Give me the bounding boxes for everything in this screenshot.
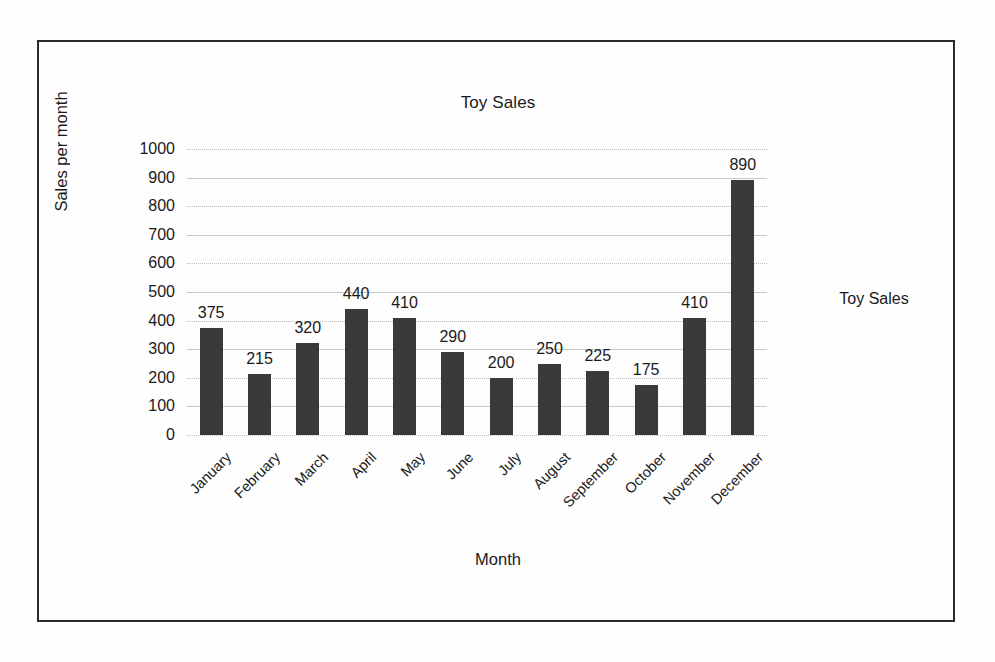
gridline <box>187 178 767 179</box>
x-axis-tick-label: June <box>443 449 477 483</box>
bar[interactable] <box>635 385 658 435</box>
y-axis-tick-label: 500 <box>105 283 175 301</box>
bar[interactable] <box>683 318 706 435</box>
x-axis-tick-label: February <box>230 449 282 501</box>
y-axis-tick-label: 600 <box>105 254 175 272</box>
y-axis-tick-label: 300 <box>105 340 175 358</box>
bar[interactable] <box>731 180 754 435</box>
bar[interactable] <box>490 378 513 435</box>
y-axis-tick-label: 700 <box>105 226 175 244</box>
gridline <box>187 263 767 264</box>
bar[interactable] <box>200 328 223 435</box>
gridline <box>187 149 767 150</box>
chart-page: Toy Sales Toy Sales Sales per month Mont… <box>0 0 995 662</box>
bar-value-label: 410 <box>375 294 435 312</box>
legend-entry-toy-sales: Toy Sales <box>839 290 908 307</box>
x-axis-tick-label: March <box>291 449 331 489</box>
x-axis-tick-label: October <box>622 449 670 497</box>
plot-area: 01002003004005006007008009001000 3752153… <box>187 149 767 435</box>
bar[interactable] <box>538 364 561 436</box>
gridline <box>187 321 767 322</box>
bar-value-label: 215 <box>230 350 290 368</box>
chart-frame: Toy Sales Toy Sales Sales per month Mont… <box>37 40 955 622</box>
gridline <box>187 435 767 436</box>
bar[interactable] <box>296 343 319 435</box>
x-axis-tick-label: April <box>348 449 380 481</box>
y-axis-tick-label: 100 <box>105 397 175 415</box>
bar-value-label: 890 <box>713 156 773 174</box>
bar-value-label: 375 <box>181 304 241 322</box>
bar-value-label: 320 <box>278 319 338 337</box>
y-axis-tick-label: 400 <box>105 312 175 330</box>
x-axis-tick-label: July <box>495 449 525 479</box>
chart-legend: Toy Sales <box>794 290 954 308</box>
bar-value-label: 175 <box>616 361 676 379</box>
y-axis-tick-label: 200 <box>105 369 175 387</box>
y-axis-tick-label: 900 <box>105 169 175 187</box>
x-axis-tick-label: August <box>530 449 573 492</box>
y-axis-title: Sales per month <box>52 42 71 262</box>
gridline <box>187 378 767 379</box>
x-axis-tick-label: January <box>187 449 235 497</box>
gridline <box>187 406 767 407</box>
bar-value-label: 410 <box>665 294 725 312</box>
x-axis-tick-label: May <box>397 449 428 480</box>
chart-title: Toy Sales <box>39 93 957 113</box>
y-axis-tick-label: 800 <box>105 197 175 215</box>
bar[interactable] <box>586 371 609 435</box>
bar[interactable] <box>441 352 464 435</box>
x-axis-title: Month <box>39 550 957 569</box>
y-axis-tick-label: 1000 <box>105 140 175 158</box>
gridline <box>187 235 767 236</box>
bar-value-label: 290 <box>423 328 483 346</box>
bar[interactable] <box>393 318 416 435</box>
y-axis-tick-label: 0 <box>105 426 175 444</box>
bar[interactable] <box>345 309 368 435</box>
gridline <box>187 206 767 207</box>
bar[interactable] <box>248 374 271 435</box>
